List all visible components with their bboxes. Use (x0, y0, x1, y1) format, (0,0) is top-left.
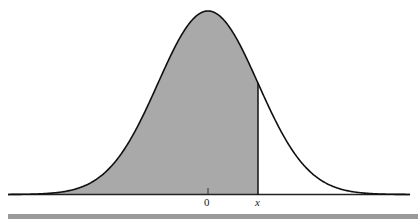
shaded-area (8, 11, 258, 195)
bottom-divider-bar (8, 214, 418, 219)
normal-curve-figure (0, 0, 418, 223)
x-label: x (255, 196, 260, 208)
zero-label: 0 (204, 196, 210, 208)
